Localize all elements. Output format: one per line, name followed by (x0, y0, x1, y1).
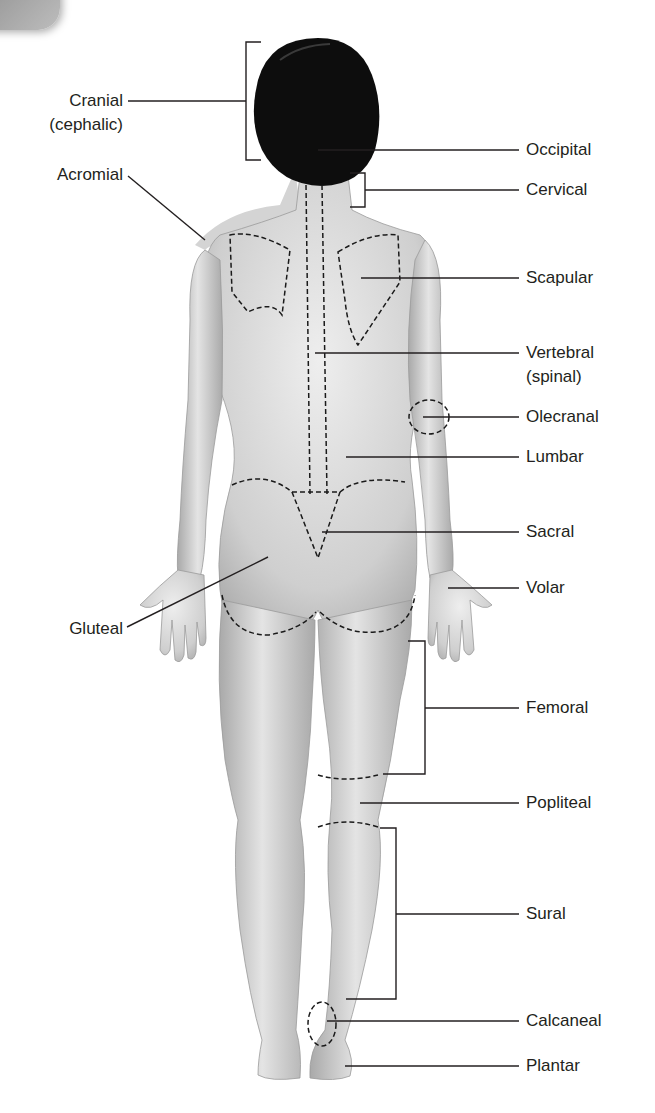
head-hair (254, 38, 380, 186)
label-cranial-line2: (cephalic) (49, 115, 123, 135)
label-sural: Sural (526, 904, 566, 924)
label-vertebral-line2: (spinal) (526, 367, 594, 387)
label-plantar: Plantar (526, 1056, 580, 1076)
label-acromial: Acromial (57, 165, 123, 185)
label-popliteal: Popliteal (526, 793, 591, 813)
label-cervical: Cervical (526, 180, 587, 200)
label-volar: Volar (526, 578, 565, 598)
label-calcaneal: Calcaneal (526, 1011, 602, 1031)
label-cranial-line1: Cranial (49, 91, 123, 111)
body-silhouette (140, 170, 492, 1080)
label-lumbar: Lumbar (526, 447, 584, 467)
label-vertebral-line1: Vertebral (526, 343, 594, 363)
label-scapular: Scapular (526, 268, 593, 288)
label-sacral: Sacral (526, 522, 574, 542)
label-cranial: Cranial (cephalic) (49, 91, 123, 135)
label-gluteal: Gluteal (69, 619, 123, 639)
label-femoral: Femoral (526, 698, 588, 718)
label-olecranal: Olecranal (526, 407, 599, 427)
label-vertebral: Vertebral (spinal) (526, 343, 594, 387)
label-occipital: Occipital (526, 140, 591, 160)
